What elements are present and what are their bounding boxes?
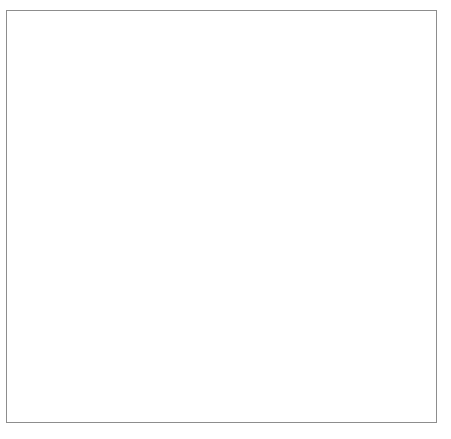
figure-frame	[6, 10, 437, 423]
figure-container: 12345101520 Time (s) Velocity (m/s)	[0, 0, 451, 439]
